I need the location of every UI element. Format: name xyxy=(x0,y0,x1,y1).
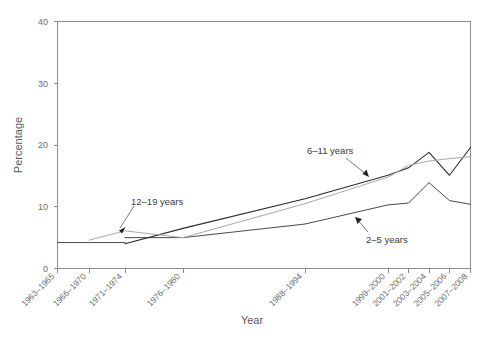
annotation-6-11: 6–11 years xyxy=(307,145,369,177)
y-tick-label-0: 0 xyxy=(43,264,48,274)
x-tick-label-3: 1976–1980 xyxy=(145,271,182,308)
x-axis-ticks xyxy=(58,269,471,274)
annotation-label-12-19: 12–19 years xyxy=(131,196,184,207)
y-tick-label-30: 30 xyxy=(38,79,48,89)
y-tick-label-20: 20 xyxy=(38,140,48,150)
leader-line-6-11 xyxy=(346,158,367,175)
series-line-2-5 xyxy=(125,183,471,238)
annotation-12-19: 12–19 years xyxy=(119,196,184,234)
series-layer xyxy=(58,147,471,243)
x-tick-label-2: 1971–1974 xyxy=(87,271,124,308)
y-axis-title: Percentage xyxy=(12,117,24,173)
annotation-label-2-5: 2–5 years xyxy=(366,234,408,245)
y-axis-ticks: 0 10 20 30 40 xyxy=(38,17,58,274)
y-tick-label-10: 10 xyxy=(38,202,48,212)
arrow-head-2-5 xyxy=(355,217,362,224)
x-tick-label-1: 1966–1970 xyxy=(51,271,88,308)
annotation-label-6-11: 6–11 years xyxy=(307,145,354,156)
line-chart: 0 10 20 30 40 Percentage 1963–1965 1966–… xyxy=(0,0,487,344)
arrow-head-6-11 xyxy=(363,170,370,178)
leader-line-12-19 xyxy=(120,206,134,228)
chart-figure: 0 10 20 30 40 Percentage 1963–1965 1966–… xyxy=(0,0,487,344)
plot-frame xyxy=(58,22,471,269)
x-axis-tick-labels: 1963–1965 1966–1970 1971–1974 1976–1980 … xyxy=(19,271,469,308)
x-axis-title: Year xyxy=(241,314,264,326)
x-tick-label-4: 1988–1994 xyxy=(267,271,304,308)
y-tick-label-40: 40 xyxy=(38,17,48,27)
annotation-2-5: 2–5 years xyxy=(355,217,408,245)
